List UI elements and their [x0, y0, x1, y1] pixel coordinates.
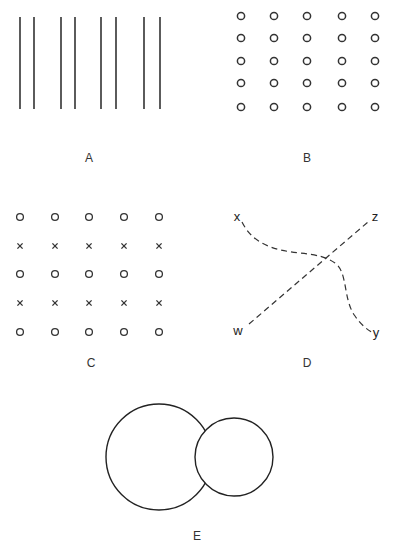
straight-dashed-line-w-z [249, 222, 368, 324]
circle-dot [121, 329, 128, 336]
panel-b-label: B [303, 151, 311, 165]
panel-c-label: C [87, 356, 96, 370]
circle-dot [237, 34, 244, 41]
circle-dot [52, 214, 59, 221]
circle-dot [338, 103, 345, 110]
panel-d-label: D [303, 356, 312, 370]
cross-mark [86, 243, 91, 248]
point-label-x: x [234, 209, 241, 224]
circle-dot [270, 103, 277, 110]
panel-a-vertical-lines [20, 17, 160, 109]
circle-dot [156, 271, 163, 278]
panel-e-overlapping-circles [106, 404, 273, 510]
circle-dot [270, 79, 277, 86]
circle-dot [270, 34, 277, 41]
cross-mark [52, 300, 57, 305]
curved-dashed-line-x-y [242, 222, 373, 333]
cross-mark [52, 243, 57, 248]
circle-dot [17, 271, 24, 278]
circle-dot [371, 12, 378, 19]
circle-dot [237, 103, 244, 110]
cross-mark [121, 300, 126, 305]
panel-b-circle-grid [237, 12, 378, 110]
circle-dot [86, 329, 93, 336]
panel-c-alternating-grid [17, 214, 163, 336]
circle-dot [156, 214, 163, 221]
circle-dot [303, 12, 310, 19]
circle-dot [338, 79, 345, 86]
figure-canvas [0, 0, 398, 544]
cross-mark [17, 243, 22, 248]
cross-mark [156, 300, 161, 305]
small-circle [195, 418, 273, 496]
circle-dot [338, 57, 345, 64]
cross-mark [156, 243, 161, 248]
circle-dot [270, 12, 277, 19]
cross-mark [17, 300, 22, 305]
point-label-z: z [372, 209, 379, 224]
circle-dot [86, 214, 93, 221]
point-label-w: w [233, 323, 242, 338]
circle-dot [86, 271, 93, 278]
circle-dot [156, 329, 163, 336]
circle-dot [371, 79, 378, 86]
cross-mark [86, 300, 91, 305]
circle-dot [17, 329, 24, 336]
circle-dot [303, 34, 310, 41]
circle-dot [270, 57, 277, 64]
circle-dot [303, 57, 310, 64]
circle-dot [237, 79, 244, 86]
cross-mark [121, 243, 126, 248]
panel-d-crossing-paths [242, 222, 373, 333]
circle-dot [338, 34, 345, 41]
circle-dot [371, 57, 378, 64]
circle-dot [17, 214, 24, 221]
panel-e-label: E [193, 529, 201, 543]
circle-dot [303, 103, 310, 110]
circle-dot [237, 57, 244, 64]
circle-dot [338, 12, 345, 19]
circle-dot [371, 103, 378, 110]
circle-dot [303, 79, 310, 86]
circle-dot [52, 271, 59, 278]
circle-dot [121, 214, 128, 221]
circle-dot [371, 34, 378, 41]
point-label-y: y [373, 325, 380, 340]
circle-dot [237, 12, 244, 19]
panel-a-label: A [85, 151, 93, 165]
circle-dot [52, 329, 59, 336]
circle-dot [121, 271, 128, 278]
